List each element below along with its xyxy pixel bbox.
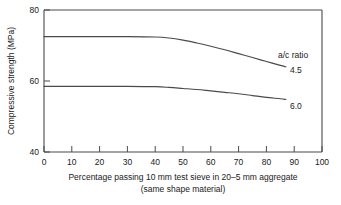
x-tick-label-60: 60 bbox=[206, 157, 216, 167]
x-axis-title-line1: Percentage passing 10 mm test sieve in 2… bbox=[68, 172, 297, 182]
x-tick-label-20: 20 bbox=[95, 157, 105, 167]
series-label-6-0: 6.0 bbox=[290, 101, 302, 111]
y-axis-title: Compressive strength (MPa) bbox=[6, 27, 16, 135]
x-tick-label-30: 30 bbox=[123, 157, 133, 167]
x-tick-label-10: 10 bbox=[67, 157, 77, 167]
x-tick-label-100: 100 bbox=[315, 157, 329, 167]
y-tick-label-40: 40 bbox=[30, 147, 40, 157]
x-tick-label-40: 40 bbox=[150, 157, 160, 167]
legend-title-ac-ratio: a/c ratio bbox=[278, 50, 309, 60]
x-tick-label-80: 80 bbox=[262, 157, 272, 167]
chart-figure: 80 60 40 0 10 20 30 40 50 60 70 80 90 10… bbox=[0, 0, 341, 205]
x-tick-label-90: 90 bbox=[289, 157, 299, 167]
x-tick-label-70: 70 bbox=[234, 157, 244, 167]
series-label-4-5: 4.5 bbox=[290, 65, 302, 75]
x-tick-label-0: 0 bbox=[42, 157, 47, 167]
x-axis-title-line2: (same shape material) bbox=[141, 184, 226, 194]
compressive-strength-line-chart: 80 60 40 0 10 20 30 40 50 60 70 80 90 10… bbox=[0, 0, 341, 205]
x-tick-label-50: 50 bbox=[178, 157, 188, 167]
y-tick-label-80: 80 bbox=[30, 5, 40, 15]
y-tick-label-60: 60 bbox=[30, 76, 40, 86]
